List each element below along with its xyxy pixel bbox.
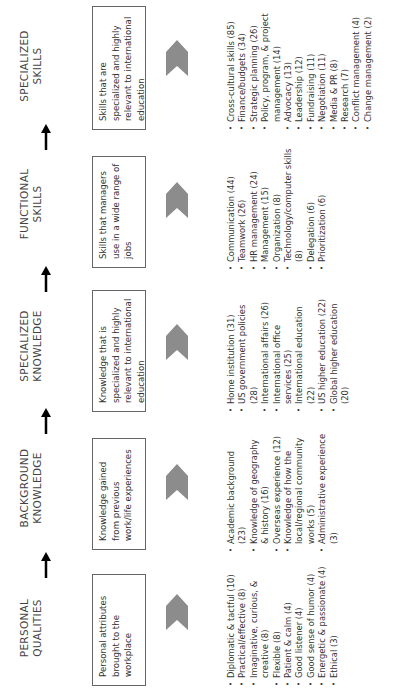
list-item: Leadership (12) [294, 2, 305, 130]
list-item: Patient & calm (4) [283, 560, 294, 686]
item-list: Cross-cultural skills (85) Finance/budge… [226, 2, 374, 130]
description-box: Knowledge gained from previous work/life… [92, 438, 146, 550]
list-item: Technology/computer skills (8) [283, 146, 306, 270]
item-list: Home institution (31) US government poli… [226, 288, 351, 412]
list-item: Diplomatic & tactful (10) [226, 560, 237, 686]
item-list: Communication (44) Teamwork (26) HR mana… [226, 146, 329, 270]
list-item: Organization (8) [272, 146, 283, 270]
list-item: Overseas experience (12) [272, 432, 283, 552]
list-item: Delegation (6) [306, 146, 317, 270]
list-item: Research (7) [340, 2, 351, 130]
list-item: Management (15) [260, 146, 271, 270]
list-item: Policy, program, & project management (1… [260, 2, 283, 130]
chevron-right-icon [166, 464, 188, 500]
list-item: Academic background (23) [226, 432, 249, 552]
list-item: US government policies (28) [237, 288, 260, 412]
list-item: Fundraising (11) [306, 2, 317, 130]
list-item: Good sense of humor (4) [306, 560, 317, 686]
column-heading: FUNCTIONAL SKILLS [18, 136, 44, 272]
list-item: Flexible (8) [272, 560, 283, 686]
list-item: Home institution (31) [226, 288, 237, 412]
column-personal-qualities: PERSONAL QUALITIES Personal attributes b… [0, 560, 398, 696]
list-item: Global higher education (20) [329, 288, 352, 412]
chevron-right-icon [166, 182, 188, 218]
list-item: International education (22) [294, 288, 317, 412]
description-box: Knowledge that is specialized and highly… [92, 290, 146, 412]
list-item: International affairs (26) [260, 288, 271, 412]
list-item: Conflict management (4) [351, 2, 362, 130]
list-item: Imaginative, curious, & creative (8) [249, 560, 272, 686]
list-item: Cross-cultural skills (85) [226, 2, 237, 130]
column-heading: PERSONAL QUALITIES [18, 560, 44, 696]
list-item: Negotiation (11) [317, 2, 328, 130]
list-item: International office services (25) [272, 288, 295, 412]
column-heading: SPECIALIZED SKILLS [18, 0, 44, 132]
list-item: Communication (44) [226, 146, 237, 270]
list-item: Media & PR (8) [329, 2, 340, 130]
list-item: Practical/effective (8) [237, 560, 248, 686]
list-item: US higher education (22) [317, 288, 328, 412]
list-item: Change management (2) [363, 2, 374, 130]
item-list: Academic background (23) Knowledge of ge… [226, 432, 340, 552]
list-item: Strategic planning (26) [249, 2, 260, 130]
chevron-right-icon [166, 324, 188, 360]
column-specialized-knowledge: SPECIALIZED KNOWLEDGE Knowledge that is … [0, 278, 398, 414]
chevron-right-icon [166, 40, 188, 76]
description-box: Personal attributes brought to the workp… [92, 574, 146, 686]
description-box: Skills that managers use in a wide range… [92, 156, 146, 268]
list-item: Administrative experience (3) [317, 432, 340, 552]
list-item: Good listener (4) [294, 560, 305, 686]
list-item: Ethical (3) [329, 560, 340, 686]
item-list: Diplomatic & tactful (10) Practical/effe… [226, 560, 340, 686]
column-specialized-skills: SPECIALIZED SKILLS Skills that are speci… [0, 0, 398, 132]
list-item: Knowledge of geography & history (16) [249, 432, 272, 552]
list-item: Advocacy (13) [283, 2, 294, 130]
list-item: Finance/budgets (34) [237, 2, 248, 130]
competency-diagram: PERSONAL QUALITIES Personal attributes b… [0, 0, 398, 696]
list-item: HR management (24) [249, 146, 260, 270]
list-item: Knowledge of how the local/regional comm… [283, 432, 317, 552]
list-item: Prioritization (6) [317, 146, 328, 270]
column-heading: SPECIALIZED KNOWLEDGE [18, 278, 44, 414]
description-box: Skills that are specialized and highly r… [92, 6, 146, 130]
column-functional-skills: FUNCTIONAL SKILLS Skills that managers u… [0, 136, 398, 272]
chevron-right-icon [166, 594, 188, 630]
column-background-knowledge: BACKGROUND KNOWLEDGE Knowledge gained fr… [0, 420, 398, 556]
list-item: Energetic & passionate (4) [317, 560, 328, 686]
list-item: Teamwork (26) [237, 146, 248, 270]
column-heading: BACKGROUND KNOWLEDGE [18, 420, 44, 556]
